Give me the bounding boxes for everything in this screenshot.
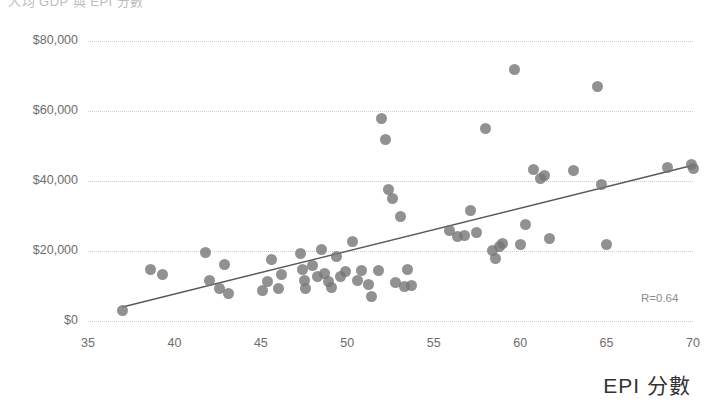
y-axis-tick-label: $40,000 bbox=[6, 173, 78, 187]
x-axis-tick-label: 60 bbox=[513, 336, 527, 350]
y-axis-tick-label: $0 bbox=[6, 313, 78, 327]
x-axis-tick-label: 70 bbox=[686, 336, 700, 350]
x-axis-tick-label: 65 bbox=[600, 336, 614, 350]
scatter-chart: 人均 GDP 與 EPI 分數 $0$20,000$40,000$60,000$… bbox=[0, 0, 705, 405]
data-point bbox=[204, 275, 215, 286]
data-point bbox=[568, 165, 579, 176]
data-point bbox=[662, 162, 673, 173]
data-point bbox=[688, 163, 699, 174]
data-point bbox=[380, 134, 391, 145]
x-axis-tick-label: 35 bbox=[81, 336, 95, 350]
x-axis-title: EPI 分數 bbox=[603, 369, 691, 399]
data-point bbox=[366, 291, 377, 302]
y-axis-tick-label: $20,000 bbox=[6, 243, 78, 257]
data-point bbox=[387, 193, 398, 204]
data-point bbox=[480, 123, 491, 134]
data-point bbox=[297, 264, 308, 275]
data-point bbox=[223, 288, 234, 299]
data-point bbox=[295, 248, 306, 259]
data-point bbox=[307, 260, 318, 271]
y-axis-tick-label: $60,000 bbox=[6, 103, 78, 117]
data-point bbox=[539, 170, 550, 181]
x-axis-tick-label: 40 bbox=[167, 336, 181, 350]
data-point bbox=[219, 259, 230, 270]
data-point bbox=[276, 269, 287, 280]
data-point bbox=[145, 264, 156, 275]
y-axis-tick-label: $80,000 bbox=[6, 33, 78, 47]
plot-area bbox=[88, 41, 693, 321]
data-point bbox=[356, 265, 367, 276]
data-point bbox=[316, 244, 327, 255]
data-point bbox=[471, 227, 482, 238]
x-axis-tick-label: 45 bbox=[254, 336, 268, 350]
x-axis-tick-label: 55 bbox=[427, 336, 441, 350]
data-point bbox=[363, 279, 374, 290]
x-axis-tick-label: 50 bbox=[340, 336, 354, 350]
data-point bbox=[157, 269, 168, 280]
correlation-annotation: R=0.64 bbox=[641, 292, 678, 304]
data-point bbox=[520, 219, 531, 230]
data-point bbox=[515, 239, 526, 250]
data-point bbox=[117, 305, 128, 316]
data-point bbox=[465, 205, 476, 216]
data-point bbox=[352, 275, 363, 286]
data-point bbox=[266, 254, 277, 265]
data-point bbox=[406, 280, 417, 291]
gridline bbox=[88, 321, 693, 322]
data-point bbox=[273, 283, 284, 294]
